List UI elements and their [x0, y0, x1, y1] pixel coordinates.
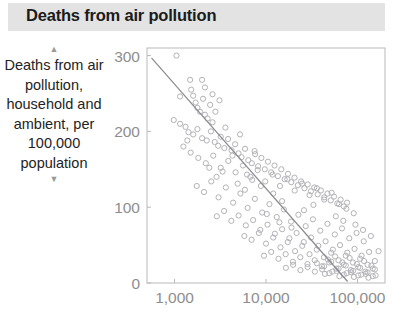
- data-point: [203, 161, 208, 166]
- data-point: [242, 187, 247, 192]
- data-point: [229, 218, 234, 223]
- data-point: [171, 117, 176, 122]
- data-point: [278, 245, 283, 250]
- data-point: [211, 153, 216, 158]
- data-point: [274, 214, 279, 219]
- data-point: [325, 221, 330, 226]
- data-point: [223, 185, 228, 190]
- data-point: [242, 146, 247, 151]
- data-point: [292, 175, 297, 180]
- data-point: [344, 200, 349, 205]
- data-point: [245, 205, 250, 210]
- data-point: [223, 125, 228, 130]
- data-point: [251, 217, 256, 222]
- x-axis-ticks: [175, 279, 358, 283]
- data-point: [376, 249, 381, 254]
- data-points: [171, 53, 381, 280]
- data-point: [298, 255, 303, 260]
- data-point: [333, 254, 338, 259]
- data-point: [181, 144, 186, 149]
- data-point: [333, 214, 338, 219]
- data-point: [236, 213, 241, 218]
- data-point: [259, 155, 264, 160]
- trend-line: [152, 58, 348, 282]
- data-point: [193, 100, 198, 105]
- y-axis-tick-labels: 0100200300: [114, 48, 140, 292]
- data-point: [221, 208, 226, 213]
- data-point: [225, 136, 230, 141]
- data-point: [213, 109, 218, 114]
- data-point: [339, 226, 344, 231]
- data-point: [285, 171, 290, 176]
- data-point: [177, 94, 182, 99]
- data-point: [194, 183, 199, 188]
- data-point: [318, 228, 323, 233]
- data-point: [201, 189, 206, 194]
- data-point: [217, 98, 222, 103]
- data-point: [323, 239, 328, 244]
- data-point: [214, 174, 219, 179]
- data-point: [341, 218, 346, 223]
- x-tick-label: 100,000: [329, 289, 385, 306]
- data-point: [242, 233, 247, 238]
- data-point: [347, 236, 352, 241]
- data-point: [368, 233, 373, 238]
- data-point: [204, 138, 209, 143]
- data-point: [249, 237, 254, 242]
- data-point: [283, 265, 288, 270]
- data-point: [177, 121, 182, 126]
- data-point: [191, 93, 196, 98]
- x-tick-label: 10,000: [242, 289, 290, 306]
- data-point: [276, 256, 281, 261]
- data-point: [336, 202, 341, 207]
- data-point: [238, 191, 243, 196]
- scatter-chart: 1,00010,000100,000 0100200300: [0, 0, 393, 311]
- data-point: [222, 145, 227, 150]
- data-point: [196, 155, 201, 160]
- data-point: [214, 214, 219, 219]
- data-point: [199, 77, 204, 82]
- data-point: [235, 181, 240, 186]
- data-point: [189, 87, 194, 92]
- data-point: [202, 85, 207, 90]
- data-point: [265, 222, 270, 227]
- plot-frame: [147, 48, 385, 283]
- data-point: [261, 253, 266, 258]
- data-point: [183, 124, 188, 129]
- data-point: [332, 232, 337, 237]
- data-point: [292, 249, 297, 254]
- data-point: [312, 269, 317, 274]
- data-point: [230, 153, 235, 158]
- data-point: [307, 252, 312, 257]
- trend-line-segment: [152, 58, 348, 282]
- data-point: [188, 150, 193, 155]
- data-point: [252, 196, 257, 201]
- data-point: [311, 202, 316, 207]
- data-point: [352, 246, 357, 251]
- data-point: [195, 127, 200, 132]
- data-point: [267, 202, 272, 207]
- data-point: [231, 200, 236, 205]
- data-point: [216, 195, 221, 200]
- data-point: [279, 167, 284, 172]
- data-point: [372, 258, 377, 263]
- data-point: [210, 92, 215, 97]
- data-point: [277, 220, 282, 225]
- data-point: [262, 167, 267, 172]
- data-point: [263, 179, 268, 184]
- data-point: [233, 170, 238, 175]
- data-point: [303, 224, 308, 229]
- data-point: [283, 252, 288, 257]
- data-point: [280, 199, 285, 204]
- data-point: [209, 179, 214, 184]
- data-point: [243, 223, 248, 228]
- data-point: [361, 239, 366, 244]
- data-point: [353, 222, 358, 227]
- data-point: [237, 132, 242, 137]
- data-point: [296, 212, 301, 217]
- data-point: [272, 163, 277, 168]
- y-tick-label: 100: [114, 199, 140, 216]
- data-point: [208, 102, 213, 107]
- data-point: [264, 211, 269, 216]
- data-point: [174, 53, 179, 58]
